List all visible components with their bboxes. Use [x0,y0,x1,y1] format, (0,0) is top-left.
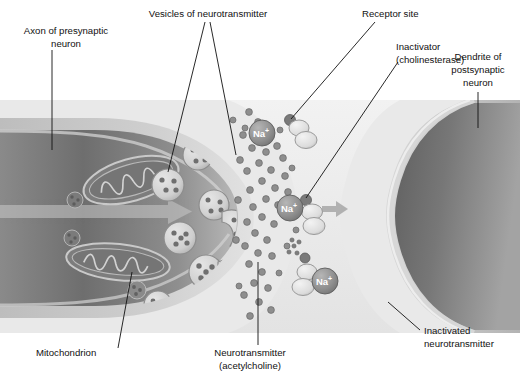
label-axon-line2: neuron [51,38,81,49]
synapse-diagram: Na+ Na+ Na+ Axon of presynaptic neuron V… [0,0,520,383]
vesicle [164,222,196,254]
label-dendrite-line1: Dendrite of [455,51,502,62]
label-mitochondrion: Mitochondrion [36,347,96,358]
sodium-ion: Na+ [277,195,303,221]
label-receptor-site: Receptor site [362,8,419,19]
label-neurotransmitter-line1: Neurotransmitter [214,347,286,358]
ion-label: Na [316,276,329,287]
ion-charge: + [328,275,332,282]
ion-label: Na [253,128,266,139]
label-inactivated-line2: neurotransmitter [424,338,495,349]
label-neurotransmitter-line2: (acetylcholine) [219,360,281,371]
label-vesicles: Vesicles of neurotransmitter [149,8,268,19]
diagram-canvas: Na+ Na+ Na+ Axon of presynaptic neuron V… [0,0,520,383]
label-inactivator-line1: Inactivator [396,41,441,52]
vesicle [152,169,184,201]
sodium-ion: Na+ [312,268,338,294]
label-dendrite-line2: postsynaptic [451,64,505,75]
ion-label: Na [281,203,294,214]
label-dendrite-line3: neuron [463,77,493,88]
sodium-ion: Na+ [249,120,275,146]
label-inactivated-line1: Inactivated [424,325,470,336]
ion-charge: + [265,127,269,134]
label-axon-line1: Axon of presynaptic [24,25,108,36]
ion-charge: + [293,202,297,209]
